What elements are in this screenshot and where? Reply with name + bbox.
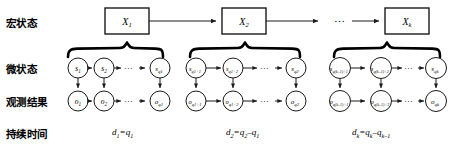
duration-formula-d2-text: d2=q2–q1 (226, 127, 259, 137)
group-braces (68, 43, 440, 57)
micro-ellipsis-groupk: … (404, 61, 414, 71)
hsmm-diagram: X1 X2 Xk s1 s2 sq1 (0, 0, 454, 150)
brace-groupk (334, 43, 440, 57)
duration-formula-d1: d1=q1 (112, 127, 133, 139)
duration-formula-dk: dk=qk–qk–1 (352, 127, 390, 139)
observation-ellipsis-groupk: … (404, 94, 414, 104)
micro-ellipsis-group2: … (260, 61, 270, 71)
row-label-macro-state: 宏状态 (6, 15, 37, 30)
brace-group1 (68, 43, 163, 57)
duration-formula-d2: d2=q2–q1 (226, 127, 259, 139)
micro-ellipsis-group1: … (124, 61, 134, 71)
observation-ellipsis-group1: … (124, 94, 134, 104)
row-label-observation: 观测结果 (6, 94, 48, 109)
duration-formula-dk-text: dk=qk–qk–1 (352, 127, 390, 137)
brace-group2 (190, 43, 300, 57)
duration-formula-d1-text: d1=q1 (112, 127, 133, 137)
observation-ellipsis-group2: … (260, 94, 270, 104)
row-label-duration: 持续时间 (6, 126, 48, 141)
macro-ellipsis: … (334, 12, 346, 24)
row-label-micro-state: 微状态 (6, 61, 37, 76)
emission-arrows (78, 78, 436, 88)
